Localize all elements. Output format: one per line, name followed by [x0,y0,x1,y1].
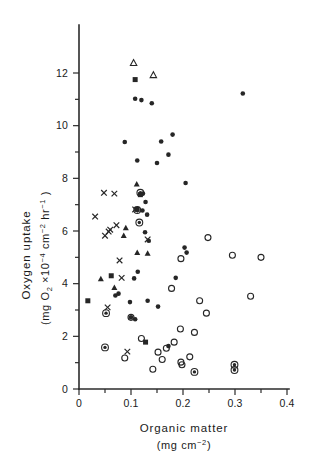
axes-lines [79,25,289,389]
data-point-filled-square [109,273,114,278]
data-point-open-circle [248,293,254,299]
data-point-filled-circle [241,91,246,96]
data-point-open-triangle [130,60,136,66]
data-point-dot-in-circle [103,310,110,317]
x-axis-units: (mg cm−2) [157,438,211,451]
data-point-open-circle [159,357,165,363]
data-point-filled-circle [113,293,118,298]
y-axis-title: Oxygen uptake [20,210,32,299]
data-point-cross [112,191,118,197]
data-point-open-circle [169,285,175,291]
data-point-open-circle [205,235,211,241]
data-point-cross [125,349,131,355]
data-point-filled-triangle [98,276,104,282]
data-point-cross [117,258,123,264]
y-tick-label: 2 [62,330,68,342]
data-point-open-triangle [150,72,156,78]
data-point-dot-in-circle [102,344,109,351]
data-point-open-circle [197,298,203,304]
data-point-dot-in-circle [191,368,198,375]
data-point-filled-circle [128,300,133,305]
data-point-filled-circle [150,101,155,106]
data-point-filled-circle [135,158,140,163]
y-axis-ticks: 024681012 [56,67,79,395]
data-point-filled-circle [145,212,150,217]
data-point-filled-triangle [134,181,140,187]
y-tick-label: 10 [56,119,68,131]
data-point-filled-square [133,77,138,82]
x-tick-label: 0.4 [279,397,294,409]
x-tick-label: 0.2 [175,397,190,409]
data-point-dot-in-circle [136,219,143,226]
data-point-filled-circle [145,298,150,303]
data-point-cross [114,222,120,228]
data-point-filled-circle [156,304,161,309]
x-axis-ticks: 00.10.20.30.4 [76,389,295,409]
data-point-filled-circle [183,181,188,186]
data-point-filled-circle [135,270,140,275]
figure-container: Oxygen uptake (mg O2 ×10−4 cm−2 hr−1 ) 0… [0,0,318,466]
y-tick-label: 4 [62,277,68,289]
data-point-filled-circle [182,245,187,250]
data-point-filled-circle [159,139,164,144]
data-point-filled-triangle [145,250,151,256]
data-point-open-circle [178,256,184,262]
data-point-filled-circle [129,315,134,320]
data-point-open-circle [191,329,197,335]
y-tick-label: 12 [56,67,68,79]
data-point-open-circle [155,349,161,355]
data-point-cross [119,275,125,281]
x-axis-title-group: Organic matter (mg cm−2) [140,422,229,451]
data-point-filled-triangle [134,249,140,255]
data-point-cross [92,214,98,220]
data-point-filled-circle [132,276,137,281]
data-markers [85,60,264,376]
data-point-cross [101,190,107,196]
data-point-filled-triangle [123,225,129,231]
data-point-open-circle [150,366,156,372]
data-point-open-circle [203,310,209,316]
data-point-filled-triangle [111,284,117,290]
data-point-open-circle [138,335,144,341]
y-tick-label: 8 [62,172,68,184]
data-point-open-circle [171,339,177,345]
y-axis-units-group: (mg O2 ×10−4 cm−2 hr−1 ) [38,191,54,325]
data-point-filled-triangle [121,233,127,239]
y-axis-units: (mg O2 ×10−4 cm−2 hr−1 ) [38,191,54,325]
x-tick-label: 0 [76,397,82,409]
scatter-plot: Oxygen uptake (mg O2 ×10−4 cm−2 hr−1 ) 0… [0,0,318,466]
data-point-filled-circle [184,250,189,255]
x-tick-label: 0.1 [123,397,138,409]
data-point-open-circle [229,252,235,258]
x-axis-title: Organic matter [140,422,229,434]
data-point-filled-circle [155,161,160,166]
data-point-filled-circle [173,276,178,281]
data-point-open-circle [187,354,193,360]
data-point-filled-circle [170,132,175,137]
data-point-filled-circle [133,97,138,102]
data-point-filled-square [85,298,90,303]
data-point-open-circle [122,355,128,361]
y-tick-label: 6 [62,225,68,237]
data-point-cross [102,233,108,239]
data-point-filled-circle [139,98,144,103]
data-point-open-circle [258,254,264,260]
data-point-filled-circle [122,140,127,145]
data-point-filled-circle [143,230,148,235]
data-point-filled-circle [166,152,171,157]
data-point-open-circle [177,326,183,332]
y-tick-label: 0 [62,383,68,395]
x-tick-label: 0.3 [227,397,242,409]
data-point-filled-circle [143,200,148,205]
y-axis-title-group: Oxygen uptake [20,210,32,299]
